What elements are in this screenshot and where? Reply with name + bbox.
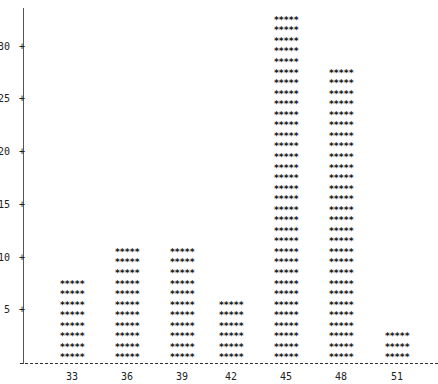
y-tick-mark: + <box>19 305 25 315</box>
bar-row: ***** <box>274 36 299 47</box>
bar-row: ***** <box>329 342 354 353</box>
bar-row: ***** <box>60 342 85 353</box>
bar-row: ***** <box>170 257 195 268</box>
x-tick-label: 51 <box>380 371 414 382</box>
bar-row: ***** <box>274 194 299 205</box>
bar-row: ***** <box>385 342 410 353</box>
bar-row: ***** <box>274 152 299 163</box>
bar-row: ***** <box>274 120 299 131</box>
bar-row: ***** <box>274 163 299 174</box>
x-tick-label: 33 <box>55 371 89 382</box>
bar-row: ***** <box>115 331 140 342</box>
bar-row: ***** <box>329 247 354 258</box>
bar-row: ***** <box>274 173 299 184</box>
bar-row: ***** <box>329 300 354 311</box>
x-tick-label: 42 <box>214 371 248 382</box>
bar-row: ***** <box>60 300 85 311</box>
y-tick-label: 15 <box>0 200 10 210</box>
x-tick-label: 45 <box>269 371 303 382</box>
bar-row: ***** <box>170 289 195 300</box>
bar-row: ***** <box>170 300 195 311</box>
bar-row: ***** <box>329 352 354 363</box>
bar-row: ***** <box>115 321 140 332</box>
bar-row: ***** <box>329 163 354 174</box>
bar-row: ***** <box>329 205 354 216</box>
y-tick-label: 10 <box>0 253 10 263</box>
bar-42: ****************************** <box>214 300 248 363</box>
bar-row: ***** <box>329 236 354 247</box>
bar-row: ***** <box>385 331 410 342</box>
bar-row: ***** <box>170 331 195 342</box>
bar-row: ***** <box>115 268 140 279</box>
bar-row: ***** <box>274 89 299 100</box>
bar-row: ***** <box>274 78 299 89</box>
bar-row: ***** <box>274 257 299 268</box>
bar-row: ***** <box>115 352 140 363</box>
bar-row: ***** <box>329 289 354 300</box>
bar-row: ***** <box>274 331 299 342</box>
bar-row: ***** <box>115 257 140 268</box>
x-tick-label: 36 <box>110 371 144 382</box>
x-tick-label: 48 <box>324 371 358 382</box>
bar-row: ***** <box>219 331 244 342</box>
bar-row: ***** <box>170 321 195 332</box>
bar-row: ***** <box>274 184 299 195</box>
bar-row: ***** <box>274 310 299 321</box>
bar-row: ***** <box>219 300 244 311</box>
bar-row: ***** <box>219 352 244 363</box>
bar-row: ***** <box>329 120 354 131</box>
bar-row: ***** <box>329 268 354 279</box>
bar-row: ***** <box>115 342 140 353</box>
y-tick-label: 20 <box>0 147 10 157</box>
bar-row: ***** <box>170 342 195 353</box>
bar-row: ***** <box>274 141 299 152</box>
y-tick-mark: + <box>19 253 25 263</box>
bar-row: ***** <box>60 331 85 342</box>
y-tick-label: 25 <box>0 94 10 104</box>
bar-row: ***** <box>329 152 354 163</box>
bar-row: ***** <box>219 321 244 332</box>
bar-row: ***** <box>329 194 354 205</box>
bar-row: ***** <box>329 99 354 110</box>
bar-39: ****************************************… <box>165 247 199 363</box>
bar-row: ***** <box>274 215 299 226</box>
bar-row: ***** <box>274 352 299 363</box>
bar-row: ***** <box>219 342 244 353</box>
bar-row: ***** <box>274 68 299 79</box>
bar-33: **************************************** <box>55 279 89 363</box>
bar-row: ***** <box>274 205 299 216</box>
bar-row: ***** <box>329 310 354 321</box>
bar-row: ***** <box>329 257 354 268</box>
bar-row: ***** <box>274 342 299 353</box>
bar-row: ***** <box>329 131 354 142</box>
bar-row: ***** <box>329 173 354 184</box>
bar-row: ***** <box>170 268 195 279</box>
bar-row: ***** <box>115 300 140 311</box>
x-axis-dashed-line <box>20 363 438 364</box>
bar-row: ***** <box>274 236 299 247</box>
bar-row: ***** <box>274 279 299 290</box>
y-tick-mark: + <box>19 94 25 104</box>
bar-row: ***** <box>329 331 354 342</box>
bar-row: ***** <box>274 226 299 237</box>
bar-36: ****************************************… <box>110 247 144 363</box>
bar-row: ***** <box>219 310 244 321</box>
bar-row: ***** <box>60 289 85 300</box>
bar-row: ***** <box>329 226 354 237</box>
bar-row: ***** <box>329 78 354 89</box>
bar-row: ***** <box>274 289 299 300</box>
bar-row: ***** <box>115 279 140 290</box>
bar-row: ***** <box>274 57 299 68</box>
bar-row: ***** <box>329 110 354 121</box>
y-tick-label: 30 <box>0 42 10 52</box>
bar-row: ***** <box>60 310 85 321</box>
bar-row: ***** <box>170 310 195 321</box>
bar-row: ***** <box>274 321 299 332</box>
ascii-histogram-chart: 5+10+15+20+25+30+ **********************… <box>0 0 438 384</box>
y-tick-mark: + <box>19 200 25 210</box>
bar-row: ***** <box>329 141 354 152</box>
bar-row: ***** <box>60 279 85 290</box>
bar-row: ***** <box>115 247 140 258</box>
bar-row: ***** <box>170 352 195 363</box>
bar-row: ***** <box>329 89 354 100</box>
